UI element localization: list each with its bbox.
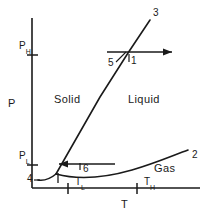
arrow-upper: [107, 49, 172, 56]
y-tick-label-p-high-sub: H: [26, 48, 31, 55]
region-label-solid: Solid: [54, 94, 80, 105]
x-tick-label-t-low: TL: [75, 177, 85, 189]
y-tick-label-p-high: PH: [19, 41, 31, 53]
y-tick-label-p-high-base: P: [19, 40, 26, 51]
point-5-leader: [116, 52, 126, 62]
point-label-3: 3: [153, 8, 159, 18]
x-axis-label: T: [121, 199, 128, 210]
x-tick-label-t-low-sub: L: [81, 184, 85, 191]
y-tick-label-p-low-base: P: [19, 150, 26, 161]
point-label-5: 5: [108, 58, 114, 68]
point-label-6: 6: [83, 164, 89, 174]
y-tick-label-p-low: PL: [19, 151, 30, 163]
solid-gas-boundary-curve: [38, 174, 56, 180]
point-label-4: 4: [27, 174, 33, 184]
x-tick-label-t-high-sub: H: [150, 184, 155, 191]
region-label-gas: Gas: [154, 163, 175, 174]
region-label-liquid: Liquid: [128, 94, 160, 105]
phase-diagram-figure: P T PH PL TL TH Solid Liquid Gas 3 1 5 6…: [0, 0, 212, 216]
point-label-2: 2: [192, 150, 198, 160]
y-tick-label-p-low-sub: L: [26, 158, 30, 165]
point-label-1: 1: [131, 56, 137, 66]
y-axis-label: P: [8, 98, 15, 109]
x-tick-label-t-high: TH: [144, 177, 155, 189]
